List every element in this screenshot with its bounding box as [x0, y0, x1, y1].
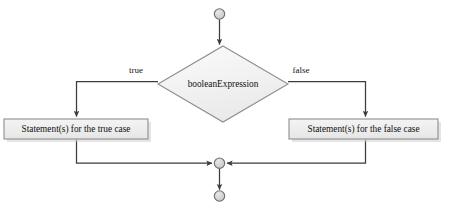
edge-false-branch-to-merge [227, 140, 366, 164]
edge-condition-to-false-branch [288, 82, 366, 117]
condition-diamond-label: booleanExpression [188, 79, 259, 89]
true-statement-box-label: Statement(s) for the true case [22, 124, 131, 135]
flowchart-canvas: booleanExpression Statement(s) for the t… [0, 0, 450, 211]
start-terminator [214, 9, 224, 19]
merge-node [214, 158, 224, 168]
edge-condition-to-true-branch [77, 82, 159, 117]
end-terminator [214, 191, 224, 201]
edge-label-true: true [129, 65, 143, 75]
edge-true-branch-to-merge [77, 140, 213, 164]
flowchart-diagram: booleanExpression Statement(s) for the t… [0, 0, 450, 211]
edge-label-false: false [293, 65, 310, 75]
false-statement-box-label: Statement(s) for the false case [307, 124, 419, 135]
